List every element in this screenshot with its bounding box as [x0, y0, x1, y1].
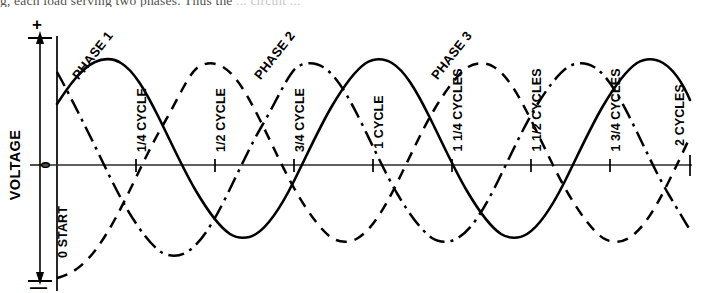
x-tick-label-half-cycle: 1/2 CYCLE: [214, 88, 228, 152]
x-tick-label-one-and-half-cycles: 1 1/2 CYCLES: [530, 68, 544, 151]
figure-page: g, each load serving two phases. Thus th…: [0, 0, 703, 293]
x-tick-label-two-cycles: 2 CYCLES: [673, 84, 687, 146]
minus-sign-label: —: [30, 278, 47, 293]
x-tick-label-quarter-cycle: 1/4 CYCLE: [135, 88, 149, 152]
x-tick-label-one-and-quarter-cycles: 1 1/4 CYCLES: [451, 68, 465, 151]
x-tick-label-one-cycle: 1 CYCLE: [372, 95, 386, 149]
phase-1-label: PHASE 1: [69, 28, 116, 82]
y-axis-label: VOLTAGE: [7, 130, 23, 201]
x-tick-label-three-quarter-cycle: 3/4 CYCLE: [293, 88, 307, 152]
three-phase-waveform-figure: + — VOLTAGE 0: [0, 0, 703, 293]
x-tick-label-one-and-three-quarter-cycles: 1 3/4 CYCLES: [609, 68, 623, 151]
plus-sign-label: +: [32, 15, 42, 34]
x-tick-label-0-start: 0 START: [56, 206, 70, 258]
voltage-span-arrow: [28, 31, 52, 285]
plot-axes: [50, 36, 692, 291]
